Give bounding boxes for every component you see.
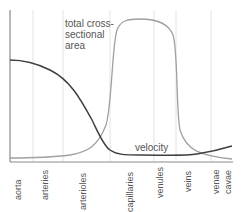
blood-flow-chart — [0, 0, 244, 212]
x-label-aorta: aorta — [14, 179, 23, 200]
velocity-curve — [10, 60, 232, 155]
x-label-venules: venules — [156, 167, 165, 198]
velocity-label: velocity — [135, 142, 168, 153]
area-label-line3: area — [65, 40, 114, 51]
x-label-venae: venae — [212, 169, 221, 194]
x-label-arterioles: arterioles — [79, 173, 88, 210]
gridlines — [33, 10, 211, 161]
area-curve — [10, 19, 232, 159]
x-label-arteries: arteries — [41, 170, 50, 200]
area-label-line2: sectional — [65, 29, 114, 40]
area-label: total cross- sectional area — [65, 18, 114, 51]
x-label-veins: veins — [184, 171, 193, 192]
area-label-line1: total cross- — [65, 18, 114, 29]
x-label-capillaries: capillaries — [126, 172, 135, 212]
x-label-cavae: cavae — [224, 170, 233, 194]
